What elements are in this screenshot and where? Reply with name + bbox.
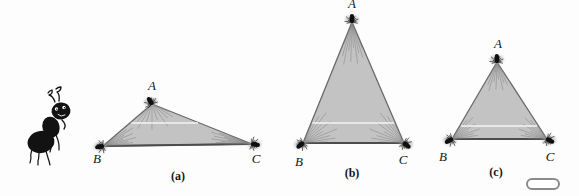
- triangle-a-group: ABC(a): [93, 78, 261, 183]
- ant-antenna: [56, 87, 61, 101]
- ant-antenna: [48, 90, 55, 102]
- ant-leg: [46, 151, 50, 165]
- vertex-ant-a-c: [247, 137, 261, 151]
- ant-pupil: [64, 107, 65, 108]
- triangle-figure-canvas: ABC(a)ABC(b)ABC(c): [0, 0, 579, 196]
- ant-head-small: [350, 14, 354, 18]
- ant-pupil: [56, 109, 57, 110]
- vertex-label-c-c: C: [546, 149, 555, 164]
- ant-illustration: [26, 87, 72, 165]
- ant-head-small: [550, 140, 554, 144]
- ant-leg: [56, 135, 59, 150]
- vertex-label-a-c: C: [252, 151, 261, 166]
- vertex-label-c-a: A: [493, 36, 502, 51]
- ant-head-small: [256, 143, 260, 147]
- caption-b: (b): [345, 166, 360, 180]
- ant-leg: [38, 151, 39, 165]
- triangle-b: [303, 22, 404, 143]
- ant-head-small: [147, 97, 151, 101]
- ant-head-small: [445, 140, 449, 144]
- vertex-ant-b-a: [345, 14, 359, 24]
- triangle-b-group: ABC(b): [294, 0, 413, 180]
- ant-head-small: [407, 145, 411, 149]
- vertex-label-b-b: B: [295, 154, 303, 169]
- caption-a: (a): [171, 169, 185, 183]
- figure-stage: ABC(a)ABC(b)ABC(c): [0, 0, 579, 196]
- ant-head-small: [296, 145, 300, 149]
- vertex-label-a-b: B: [93, 151, 101, 166]
- ant-arm: [62, 120, 65, 129]
- caption-c: (c): [489, 165, 502, 179]
- rounded-pill-shape: [527, 179, 559, 189]
- vertex-label-a-a: A: [147, 78, 156, 93]
- ant-head-small: [495, 54, 499, 58]
- vertex-label-b-a: A: [347, 0, 356, 11]
- vertex-label-c-b: B: [439, 149, 447, 164]
- ant-head-small: [95, 145, 99, 149]
- triangle-a: [103, 104, 252, 146]
- vertex-label-b-c: C: [399, 152, 408, 167]
- triangle-c-group: ABC(c): [439, 36, 556, 179]
- vertex-ant-c-a: [490, 54, 504, 64]
